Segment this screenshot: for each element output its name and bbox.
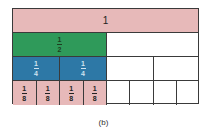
eighth-cell-empty — [154, 81, 177, 105]
quarter-cell-filled: 14 — [60, 57, 107, 81]
fraction-one-quarter: 14 — [34, 60, 39, 77]
fraction-one-eighth: 18 — [69, 85, 74, 102]
fraction-one-eighth: 18 — [45, 85, 50, 102]
half-cell-filled: 12 — [13, 33, 107, 57]
eighth-cell-filled: 18 — [60, 81, 84, 105]
eighth-cell-filled: 18 — [84, 81, 108, 105]
row-quarters: 14 14 — [13, 57, 198, 81]
quarter-cell-empty — [107, 57, 154, 81]
row-eighths: 18 18 18 18 — [13, 81, 198, 105]
whole-label: 1 — [103, 15, 109, 26]
figure-caption: (b) — [0, 118, 207, 127]
fraction-one-eighth: 18 — [92, 85, 97, 102]
eighth-cell-filled: 18 — [13, 81, 37, 105]
fraction-one-eighth: 18 — [22, 85, 27, 102]
eighth-cell-empty — [130, 81, 154, 105]
eighth-cell-empty — [107, 81, 130, 105]
row-whole: 1 — [13, 9, 198, 33]
fraction-bar-diagram: 1 12 14 14 18 18 18 — [12, 8, 199, 104]
quarter-cell-empty — [154, 57, 198, 81]
row-halves: 12 — [13, 33, 198, 57]
quarter-cell-filled: 14 — [13, 57, 60, 81]
half-cell-empty — [107, 33, 198, 57]
whole-cell: 1 — [13, 9, 198, 33]
eighth-cell-filled: 18 — [37, 81, 61, 105]
eighth-cell-empty — [177, 81, 198, 105]
fraction-one-quarter: 14 — [81, 60, 86, 77]
fraction-one-half: 12 — [57, 36, 62, 53]
